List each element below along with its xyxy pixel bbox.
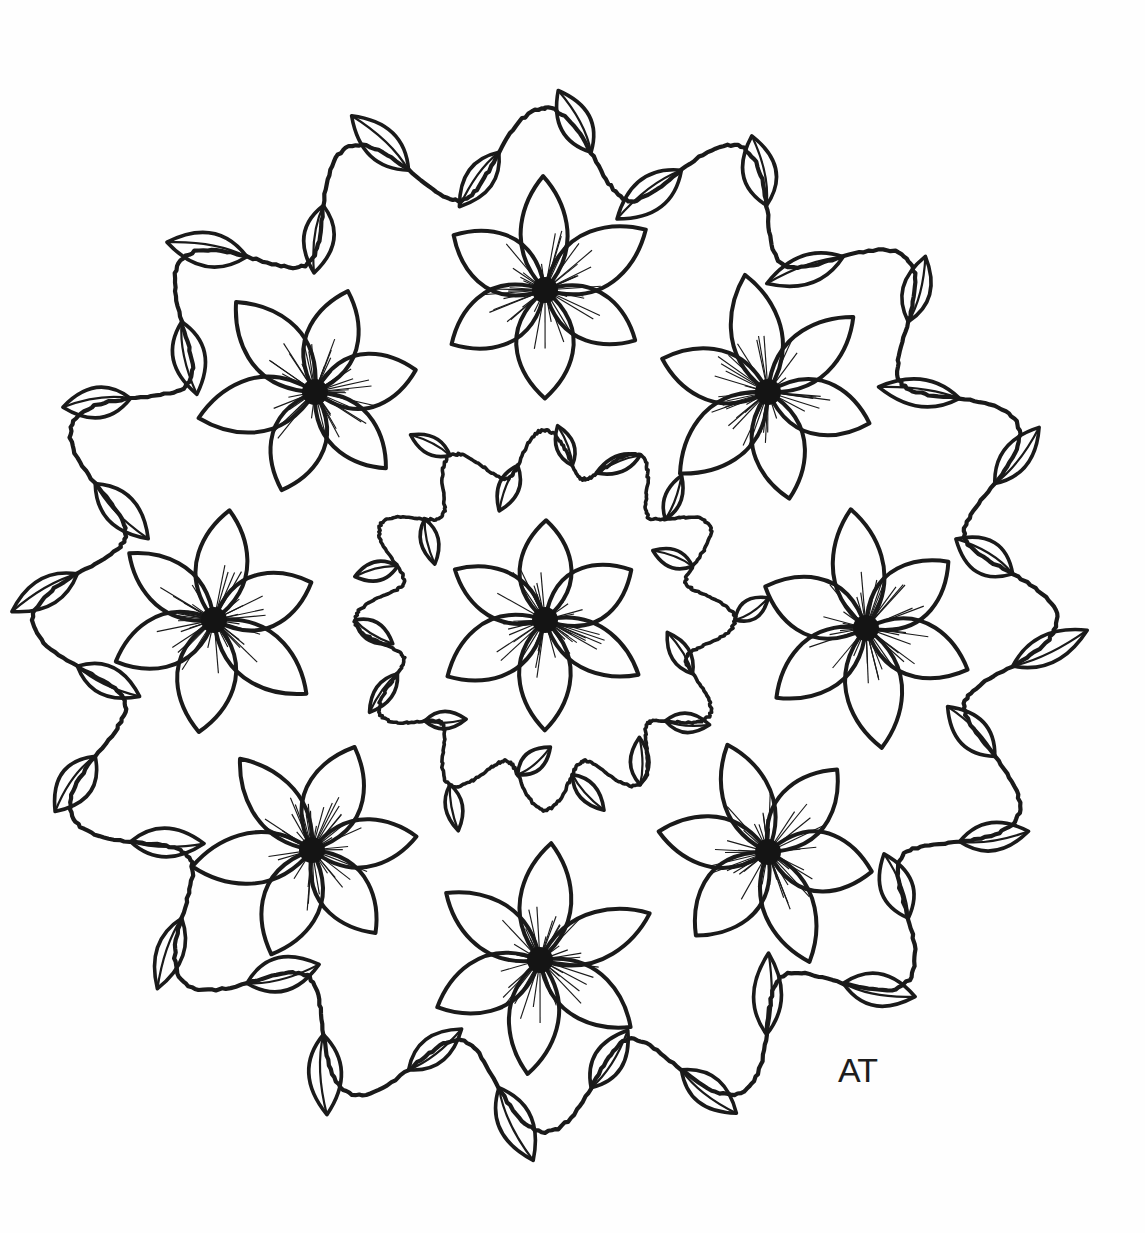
flower-core xyxy=(755,839,781,865)
flower-stamen xyxy=(319,853,367,872)
flower-stamen xyxy=(315,797,339,843)
flower-petal xyxy=(540,959,631,1028)
leaf-outline xyxy=(572,775,604,811)
flower-core xyxy=(302,379,328,405)
flower-petal xyxy=(520,520,572,620)
ring-flower-top-left xyxy=(199,291,416,490)
flower-stamen xyxy=(727,807,763,847)
ring-flower-bottom xyxy=(437,843,649,1074)
leaf-outline xyxy=(879,854,914,918)
leaf-outline xyxy=(518,747,551,775)
flower-petal xyxy=(768,379,870,435)
flower-core xyxy=(532,607,558,633)
flower-stamen xyxy=(551,294,593,319)
artist-signature: AT xyxy=(838,1051,877,1090)
ring-flower-top xyxy=(452,176,646,398)
ring-flower-left xyxy=(116,510,311,732)
ring-flower-top-right xyxy=(662,275,869,499)
flower-petal xyxy=(866,618,968,678)
flower-stamen xyxy=(534,297,543,349)
ring-flower-bottom-right xyxy=(659,745,872,962)
flower-core xyxy=(299,837,325,863)
flower-core xyxy=(853,615,879,641)
flower-core xyxy=(201,607,227,633)
flower-petal xyxy=(262,850,323,954)
flower-core xyxy=(532,277,558,303)
flower-stamen xyxy=(547,297,563,342)
leaf-outline xyxy=(445,785,463,831)
artwork-canvas: AT xyxy=(0,0,1145,1233)
flower-core xyxy=(527,947,553,973)
flower-stamen xyxy=(262,826,306,847)
floral-mandala-drawing xyxy=(0,0,1145,1233)
ring-flower-right xyxy=(765,509,967,748)
leaf-outline xyxy=(420,519,439,564)
center-flower-group xyxy=(448,520,639,730)
ring-flower-bottom-left xyxy=(192,747,416,954)
leaf-outline xyxy=(355,619,393,644)
leaf-outline xyxy=(355,561,398,581)
flower-stamen xyxy=(545,918,581,955)
flower-core xyxy=(755,379,781,405)
flower-stamen xyxy=(545,965,581,1003)
flower-petal xyxy=(521,176,568,290)
